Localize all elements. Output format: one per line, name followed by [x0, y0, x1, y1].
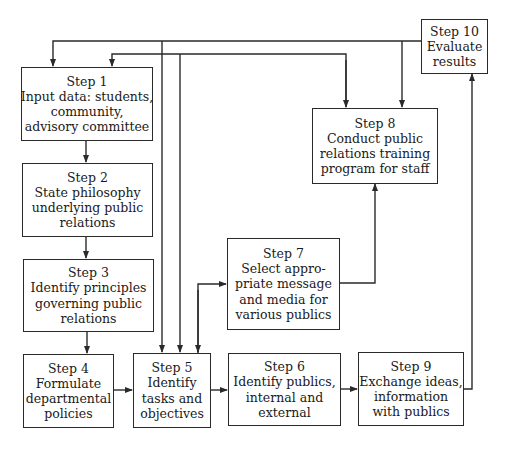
arrow-step7-step8: [339, 184, 375, 283]
public-relations-flowchart: Step 1 Input data: students, community, …: [0, 0, 506, 451]
step2-line2: underlying public: [32, 200, 144, 215]
step5-box: Step 5 Identify tasks and objectives: [133, 353, 211, 428]
step9-line1: Exchange ideas,: [359, 374, 462, 389]
step4-line2: departmental: [26, 391, 112, 406]
step1-line2: community,: [51, 104, 124, 119]
step8-box: Step 8 Conduct public relations training…: [312, 108, 438, 184]
step9-box: Step 9 Exchange ideas, information with …: [358, 352, 464, 426]
step10-line1: Evaluate: [427, 39, 483, 54]
step9-line2: information: [374, 389, 448, 404]
step3-line1: Identify principles: [31, 280, 147, 295]
step6-line2: internal and: [246, 390, 323, 405]
step1-box: Step 1 Input data: students, community, …: [21, 67, 153, 141]
step10-title: Step 10: [430, 24, 479, 39]
step1-title: Step 1: [67, 74, 108, 89]
step8-line3: program for staff: [321, 161, 430, 176]
step9-line3: with publics: [372, 404, 449, 419]
step4-title: Step 4: [48, 361, 89, 376]
arrow-step9-step10: [463, 74, 472, 389]
step1-line3: advisory committee: [25, 119, 150, 134]
step3-line2: governing public: [35, 296, 142, 311]
step6-line3: external: [258, 405, 310, 420]
step8-line1: Conduct public: [327, 131, 423, 146]
step3-title: Step 3: [68, 265, 109, 280]
step5-line1: Identify: [147, 375, 196, 390]
step3-box: Step 3 Identify principles governing pub…: [23, 259, 154, 332]
step5-title: Step 5: [152, 360, 193, 375]
arrow-step5-step7: [198, 284, 226, 353]
step4-line1: Formulate: [36, 376, 101, 391]
step3-line3: relations: [61, 311, 117, 326]
step7-line3: and media for: [239, 292, 327, 307]
step2-line1: State philosophy: [34, 185, 140, 200]
step8-title: Step 8: [355, 116, 396, 131]
step7-line1: Select appro-: [241, 261, 326, 276]
step5-line3: objectives: [140, 406, 204, 421]
step2-title: Step 2: [67, 170, 108, 185]
step9-title: Step 9: [391, 359, 432, 374]
step8-line2: relations training: [320, 146, 430, 161]
step7-title: Step 7: [263, 246, 304, 261]
step7-line4: various publics: [236, 307, 332, 322]
step10-box: Step 10 Evaluate results: [421, 19, 488, 74]
step1-line1: Input data: students,: [21, 89, 154, 104]
step6-line1: Identify publics,: [233, 374, 336, 389]
step10-line2: results: [433, 54, 476, 69]
step2-line3: relations: [60, 215, 116, 230]
step7-line2: priate message: [235, 276, 332, 291]
step5-line2: tasks and: [142, 391, 202, 406]
step4-line3: policies: [44, 406, 92, 421]
step7-box: Step 7 Select appro- priate message and …: [227, 238, 340, 330]
step2-box: Step 2 State philosophy underlying publi…: [22, 163, 153, 237]
step6-title: Step 6: [264, 359, 305, 374]
step4-box: Step 4 Formulate departmental policies: [23, 354, 114, 428]
step6-box: Step 6 Identify publics, internal and ex…: [228, 353, 341, 426]
